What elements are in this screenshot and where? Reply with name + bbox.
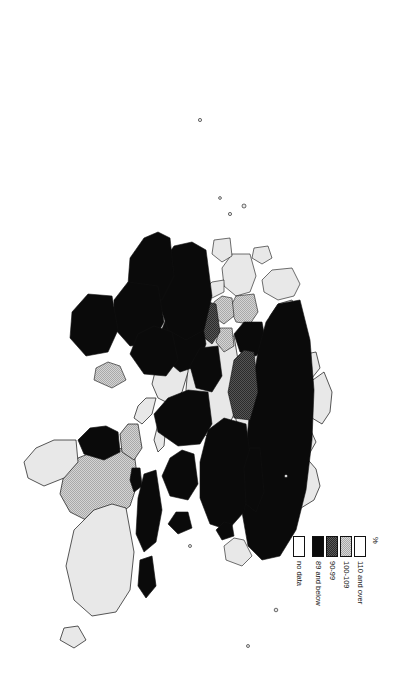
- map-page: % 110 and over 100-109 90-99 89 and belo…: [0, 0, 396, 686]
- legend-swatch-90-99: [327, 536, 339, 557]
- legend-item-no-data[interactable]: no data: [293, 536, 306, 586]
- legend-label-90-99: 90-99: [329, 561, 337, 580]
- legend-label-100-109: 100-109: [343, 561, 351, 589]
- island-speck: [284, 474, 287, 477]
- island-speck: [198, 118, 201, 121]
- legend-swatch-110-and-over: [355, 536, 367, 557]
- map-legend-rotated: % 110 and over 100-109 90-99 89 and belo…: [272, 536, 384, 644]
- island-speck: [247, 645, 250, 648]
- legend-label-110-and-over: 110 and over: [357, 561, 365, 604]
- legend-swatch-100-109: [341, 536, 353, 557]
- legend-unit-label: %: [371, 537, 380, 544]
- island-speck: [228, 212, 231, 215]
- map-legend: % 110 and over 100-109 90-99 89 and belo…: [272, 536, 384, 644]
- legend-item-110-and-over[interactable]: 110 and over: [354, 536, 367, 604]
- legend-label-no-data: no data: [296, 561, 304, 586]
- island-speck: [189, 545, 192, 548]
- legend-label-89-and-below: 89 and below: [315, 561, 323, 606]
- legend-swatch-89-and-below: [313, 536, 325, 557]
- legend-item-90-99[interactable]: 90-99: [326, 536, 339, 580]
- legend-swatch-no-data: [294, 536, 306, 557]
- legend-item-100-109[interactable]: 100-109: [340, 536, 353, 589]
- legend-item-89-and-below[interactable]: 89 and below: [312, 536, 325, 606]
- island-speck: [219, 197, 222, 200]
- island-speck: [242, 204, 246, 208]
